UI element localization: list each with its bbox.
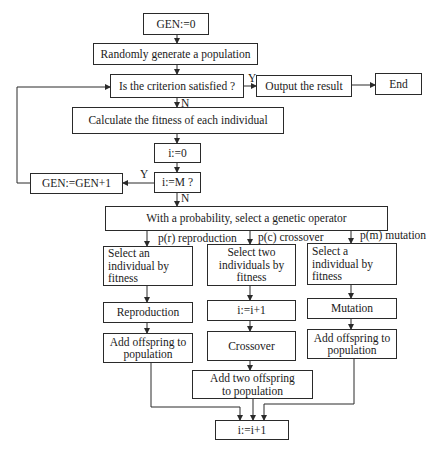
node-i-increment-mid: i:=i+1	[207, 300, 296, 321]
label-branch-crossover: p(c) crossover	[258, 231, 323, 243]
node-crossover: Crossover	[207, 331, 296, 361]
node-add-offspring-left: Add offspring to population	[103, 333, 193, 363]
node-select-two-individuals: Select two individuals by fitness	[207, 244, 296, 286]
node-i-check: i:=M ?	[154, 172, 201, 193]
node-select-individual-reproduction: Select an individual by fitness	[103, 246, 193, 286]
node-random-population: Randomly generate a population	[93, 43, 258, 65]
node-mutation: Mutation	[307, 298, 397, 319]
node-add-two-offspring: Add two offspring to population	[192, 370, 313, 399]
node-output-result: Output the result	[256, 75, 352, 97]
flowchart-canvas: GEN:=0 Randomly generate a population Is…	[0, 0, 439, 455]
label-branch-mutation: p(m) mutation	[360, 229, 426, 241]
node-i-increment-bottom: i:=i+1	[215, 420, 289, 440]
node-end: End	[375, 73, 422, 95]
node-i-init: i:=0	[154, 143, 201, 163]
node-select-individual-mutation: Select a individual by fitness	[307, 243, 397, 285]
node-criterion-check: Is the criterion satisfied ?	[110, 74, 244, 98]
node-gen-increment: GEN:=GEN+1	[30, 173, 123, 194]
label-criterion-no: N	[181, 97, 189, 109]
node-add-offspring-right: Add offspring to population	[307, 329, 397, 359]
node-select-operator: With a probability, select a genetic ope…	[105, 206, 388, 231]
label-i-check-yes: Y	[140, 168, 148, 180]
node-reproduction: Reproduction	[103, 302, 193, 323]
label-criterion-yes: Y	[248, 72, 256, 84]
label-i-check-no: N	[181, 192, 189, 204]
node-calculate-fitness: Calculate the fitness of each individual	[72, 107, 284, 134]
node-gen-init: GEN:=0	[143, 13, 209, 35]
label-branch-reproduction: p(r) reproduction	[158, 232, 237, 244]
